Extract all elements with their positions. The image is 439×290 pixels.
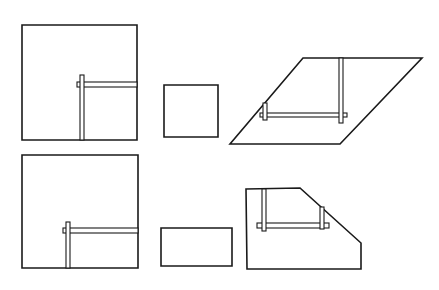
tool-bar [63,228,138,233]
tool-bar [80,75,84,140]
tool-bar [66,222,70,268]
top-right-parallelogram-with-tool-outline [230,58,422,144]
top-middle-small-square [164,85,218,137]
diagram-canvas [0,0,439,290]
tool-bar [77,82,137,87]
bottom-right-pentagon-with-tool [246,188,361,269]
tool-bar [263,103,267,120]
figures-group [22,25,422,269]
bottom-middle-small-rectangle [161,228,232,266]
tool-bar [262,189,266,231]
tool-bar [339,58,343,123]
bottom-left-square-with-tool [22,155,138,268]
tool-bar [257,223,329,228]
tool-bar [260,113,347,117]
tool-bar [320,207,324,229]
top-middle-small-square-outline [164,85,218,137]
top-left-square-with-tool [22,25,137,140]
bottom-left-square-with-tool-outline [22,155,138,268]
bottom-middle-small-rectangle-outline [161,228,232,266]
top-right-parallelogram-with-tool [230,58,422,144]
